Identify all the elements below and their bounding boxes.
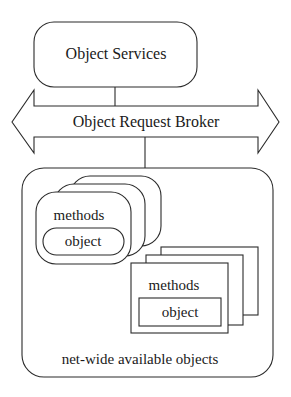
orb-label: Object Request Broker — [73, 114, 220, 130]
rounded-methods-label: methods — [54, 208, 105, 223]
object-services-label: Object Services — [66, 46, 167, 62]
rounded-object-label: object — [65, 234, 102, 249]
container-label: net-wide available objects — [62, 352, 219, 367]
rect-methods-label: methods — [149, 278, 200, 293]
rect-object-label: object — [162, 305, 199, 320]
